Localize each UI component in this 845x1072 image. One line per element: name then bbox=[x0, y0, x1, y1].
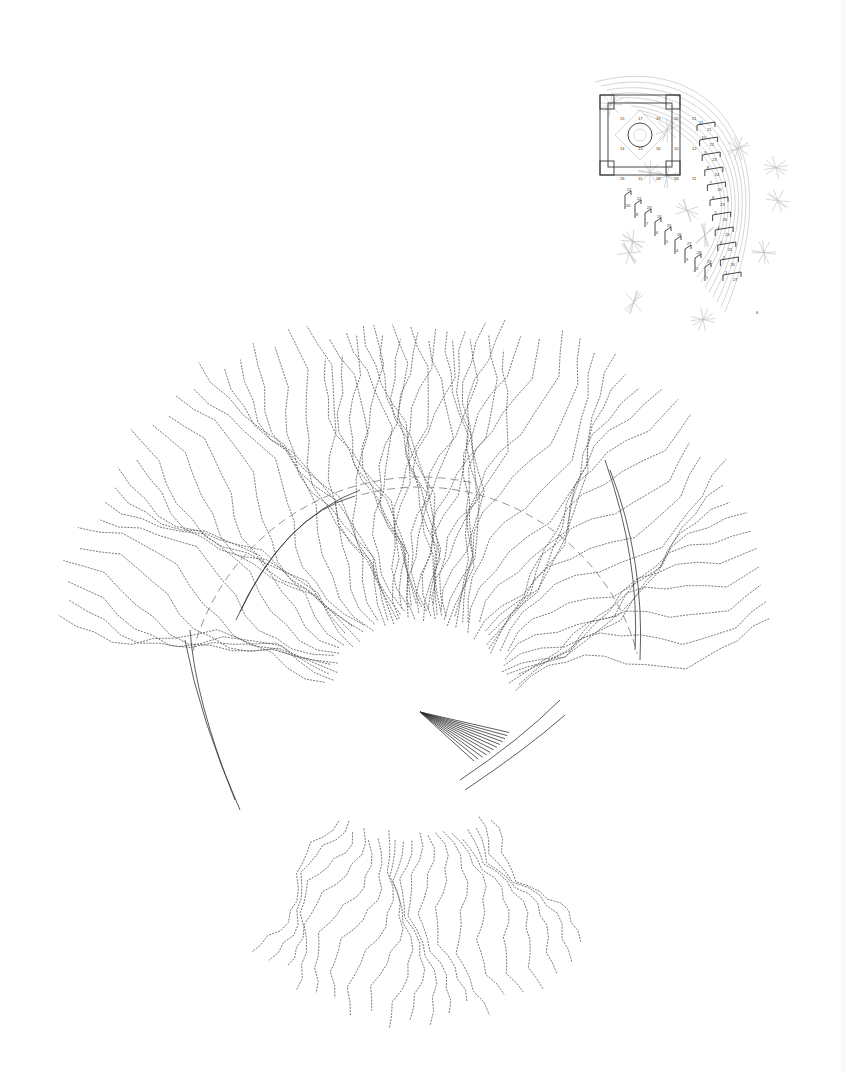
radial-dashed-path bbox=[269, 821, 349, 961]
inset-grid-label: 13 bbox=[674, 176, 679, 181]
radial-dashed-path bbox=[346, 333, 404, 611]
inset-center-circle bbox=[628, 123, 652, 147]
inset-corner-mark: 6 bbox=[756, 310, 759, 315]
radial-dashed-path bbox=[349, 335, 408, 618]
inset-stair-label: 27 bbox=[687, 241, 692, 246]
converging-line bbox=[420, 712, 505, 739]
inset-stair-label: 20 bbox=[626, 203, 631, 208]
inset-contour bbox=[613, 93, 739, 297]
inset-grid-label: 10 bbox=[674, 146, 679, 151]
inset-star-mark bbox=[623, 243, 636, 263]
radial-dashed-path bbox=[474, 388, 639, 639]
inset-star-mark bbox=[630, 290, 636, 313]
radial-dashed-path bbox=[67, 581, 329, 674]
inset-stair-label: 25 bbox=[728, 247, 733, 252]
radial-dashed-path bbox=[463, 338, 581, 623]
radial-dashed-path bbox=[400, 841, 425, 1020]
radial-dashed-path bbox=[371, 840, 403, 1011]
inset-stair-label: 25 bbox=[717, 187, 722, 192]
inset-stair-label: 26 bbox=[677, 232, 682, 237]
radial-dashed-path bbox=[456, 329, 563, 627]
bottom-fan-paths bbox=[252, 817, 581, 1029]
inset-stair-label: 3 bbox=[686, 257, 689, 262]
inset-stair-label: 7 bbox=[646, 221, 649, 226]
inset-stair-label: 26 bbox=[723, 217, 728, 222]
radial-dashed-path bbox=[413, 340, 455, 604]
inset-grid-label: 12 bbox=[692, 146, 697, 151]
radial-dashed-path bbox=[324, 359, 399, 619]
dashed-guide-arc bbox=[362, 487, 638, 654]
converging-line bbox=[420, 712, 494, 750]
converging-line bbox=[420, 712, 490, 752]
inset-grid-label: 19 bbox=[656, 116, 661, 121]
inset-stair-label: 5 bbox=[666, 239, 669, 244]
radial-dashed-path bbox=[411, 341, 454, 611]
radial-dashed-path bbox=[80, 549, 330, 665]
radial-dashed-path bbox=[408, 833, 437, 1026]
inset-stair-label: 22 bbox=[637, 196, 642, 201]
inset-star-mark bbox=[683, 199, 691, 222]
radial-dashed-path bbox=[275, 347, 388, 620]
radial-dashed-path bbox=[379, 324, 416, 603]
radial-dashed-path bbox=[418, 836, 451, 1014]
converging-line bbox=[420, 712, 509, 733]
radial-dashed-path bbox=[487, 414, 691, 645]
radial-dashed-path bbox=[329, 339, 400, 615]
solid-arc-stroke bbox=[190, 630, 235, 800]
radial-dashed-path bbox=[519, 567, 759, 674]
radial-dashed-path bbox=[389, 842, 413, 1029]
inset-stair-label: 2 bbox=[696, 266, 699, 271]
radial-dashed-path bbox=[486, 390, 662, 632]
inset-corner-block bbox=[600, 161, 614, 175]
converging-line bbox=[420, 712, 503, 742]
radial-dashed-path bbox=[468, 353, 594, 622]
radial-dashed-path bbox=[432, 335, 498, 615]
radial-dashed-path bbox=[502, 531, 752, 672]
radial-dashed-path bbox=[115, 488, 339, 648]
radial-dashed-path bbox=[507, 548, 757, 674]
inset-corner-block bbox=[666, 161, 680, 175]
inset-stair-label: 8 bbox=[636, 212, 639, 217]
inset-stair-label: 24 bbox=[715, 172, 720, 177]
radial-dashed-path bbox=[131, 430, 345, 634]
inset-contour bbox=[625, 102, 732, 287]
inset-contour bbox=[643, 114, 721, 272]
radial-plan-diagram: 1517192021141316101226111813111121102292… bbox=[0, 0, 845, 1072]
inset-stair-label: 23 bbox=[720, 202, 725, 207]
radial-dashed-path bbox=[452, 833, 504, 994]
radial-dashed-path bbox=[479, 817, 572, 962]
radial-dashed-path bbox=[252, 821, 339, 952]
inset-stair-label: 23 bbox=[647, 205, 652, 210]
inset-stair-label: 23 bbox=[712, 157, 717, 162]
radial-dashed-path bbox=[118, 468, 344, 646]
inset-stair-label: 28 bbox=[697, 250, 702, 255]
inset-stair-label: 21 bbox=[627, 187, 632, 192]
inset-stair-label: 26 bbox=[730, 262, 735, 267]
radial-dashed-path bbox=[435, 833, 467, 1002]
inset-grid-label: 21 bbox=[692, 116, 697, 121]
inset-grid-label: 16 bbox=[656, 146, 661, 151]
inset-stair-label: 22 bbox=[710, 142, 715, 147]
inset-star-mark bbox=[769, 193, 787, 209]
solid-arc-stroke bbox=[465, 715, 565, 790]
converging-line bbox=[420, 712, 483, 757]
radial-dashed-path bbox=[508, 485, 723, 651]
inset-stair-label: 21 bbox=[707, 127, 712, 132]
radial-dashed-path bbox=[422, 331, 468, 616]
inset-grid-label: 18 bbox=[656, 176, 661, 181]
inset-grid-label: 20 bbox=[674, 116, 679, 121]
radial-dashed-path bbox=[480, 374, 626, 622]
radial-dashed-path bbox=[347, 830, 393, 1015]
radial-dashed-path bbox=[391, 339, 435, 613]
page-edge-shadow bbox=[839, 0, 845, 1072]
radial-dashed-path bbox=[363, 325, 410, 607]
inset-stair-label: 29 bbox=[707, 259, 712, 264]
radial-dashed-path bbox=[63, 561, 337, 673]
radial-dashed-path bbox=[330, 839, 382, 998]
inset-grid-label: 15 bbox=[620, 116, 625, 121]
inset-grid-label: 26 bbox=[620, 176, 625, 181]
radial-dashed-path bbox=[152, 425, 360, 642]
radial-dashed-path bbox=[199, 362, 374, 631]
radial-dashed-path bbox=[78, 528, 338, 664]
left-fan-paths bbox=[59, 325, 509, 682]
